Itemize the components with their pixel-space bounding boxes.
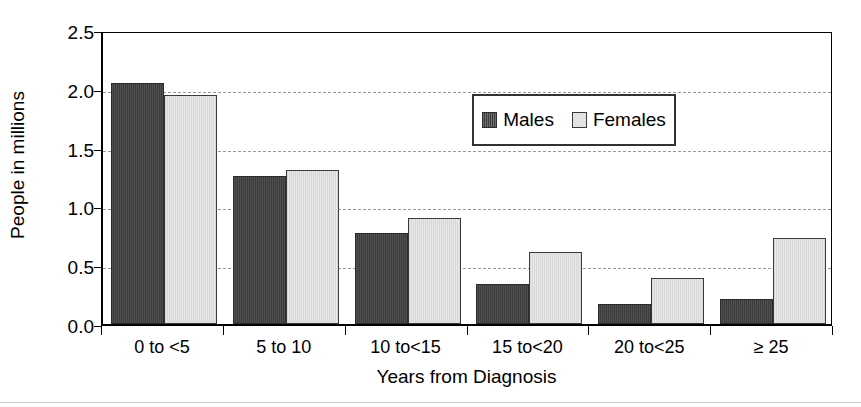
x-axis-tick-mark xyxy=(223,326,224,335)
y-axis-tick-label: 2.0 xyxy=(48,81,94,100)
x-axis-tick-mark xyxy=(710,326,711,335)
bar-males xyxy=(476,284,529,324)
x-axis-tick-label: 0 to <5 xyxy=(134,337,190,358)
bar-females xyxy=(408,218,461,324)
x-axis-tick-mark xyxy=(588,326,589,335)
y-axis-tick-label: 0.5 xyxy=(48,258,94,277)
gridline xyxy=(103,92,831,93)
x-axis-tick-label: ≥ 25 xyxy=(754,337,789,358)
y-axis-tick-labels: 0.00.51.01.52.02.5 xyxy=(40,0,94,407)
plot-inner xyxy=(103,33,831,324)
bar-females xyxy=(651,278,704,324)
y-axis-tick-label: 1.5 xyxy=(48,140,94,159)
legend-swatch-females-icon xyxy=(572,112,587,128)
legend-entry-females: Females xyxy=(572,109,666,131)
bar-males xyxy=(598,304,651,324)
bar-females xyxy=(286,170,339,324)
bar-females xyxy=(164,95,217,324)
y-axis-tick-mark xyxy=(94,208,102,209)
x-axis-tick-label: 5 to 10 xyxy=(256,337,311,358)
x-axis-tick-mark xyxy=(101,326,102,335)
x-axis-tick-mark xyxy=(467,326,468,335)
x-axis-title: Years from Diagnosis xyxy=(101,366,832,388)
x-axis-tick-mark xyxy=(832,326,833,335)
legend-swatch-males-icon xyxy=(482,112,497,128)
bar-males xyxy=(355,233,408,324)
x-axis-tick-label: 10 to<15 xyxy=(370,337,441,358)
y-axis-title-text: People in millions xyxy=(7,91,29,239)
y-axis-tick-label: 1.0 xyxy=(48,199,94,218)
bar-males xyxy=(111,83,164,324)
y-axis-tick-mark xyxy=(94,150,102,151)
plot-area xyxy=(101,32,832,326)
bar-males xyxy=(233,176,286,324)
y-axis-title: People in millions xyxy=(0,0,36,330)
bar-females xyxy=(529,252,582,324)
y-axis-tick-label: 0.0 xyxy=(48,317,94,336)
x-axis-tick-label: 20 to<25 xyxy=(614,337,685,358)
bar-males xyxy=(720,299,773,324)
x-axis-tick-mark xyxy=(345,326,346,335)
y-axis-tick-mark xyxy=(94,32,102,33)
y-axis-tick-mark xyxy=(94,267,102,268)
bar-chart-figure: People in millions 0.00.51.01.52.02.5 Ma… xyxy=(0,0,861,407)
y-axis-tick-mark xyxy=(94,91,102,92)
legend-entry-males: Males xyxy=(482,109,554,131)
bar-females xyxy=(773,238,826,324)
x-axis-tick-label: 15 to<20 xyxy=(492,337,563,358)
y-axis-tick-label: 2.5 xyxy=(48,23,94,42)
legend-label-males: Males xyxy=(503,109,554,131)
chart-legend: Males Females xyxy=(472,94,676,146)
legend-label-females: Females xyxy=(593,109,666,131)
bottom-divider xyxy=(0,402,861,403)
